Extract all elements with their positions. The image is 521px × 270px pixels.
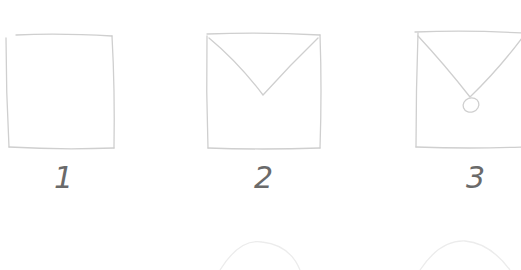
step-3-envelope-shape xyxy=(415,31,521,148)
step-3-number: 3 xyxy=(466,163,485,193)
step-2-envelope-shape xyxy=(207,33,321,149)
faint-sketch-arcs xyxy=(220,241,510,270)
step-1-square-shape xyxy=(6,34,114,149)
sketch-canvas xyxy=(0,0,521,270)
step-1-number: 1 xyxy=(54,163,73,193)
step-2-number: 2 xyxy=(254,163,273,193)
